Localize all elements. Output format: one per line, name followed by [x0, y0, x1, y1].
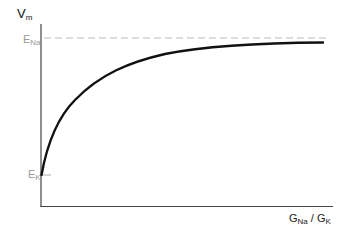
ena-tick-label: ENa	[23, 34, 41, 47]
chart-canvas	[0, 0, 348, 228]
ek-tick-label: EK	[28, 169, 41, 182]
y-axis-label: Vm	[17, 7, 32, 22]
x-axis-label: GNa / GK	[289, 213, 331, 226]
vm-curve	[42, 43, 324, 176]
